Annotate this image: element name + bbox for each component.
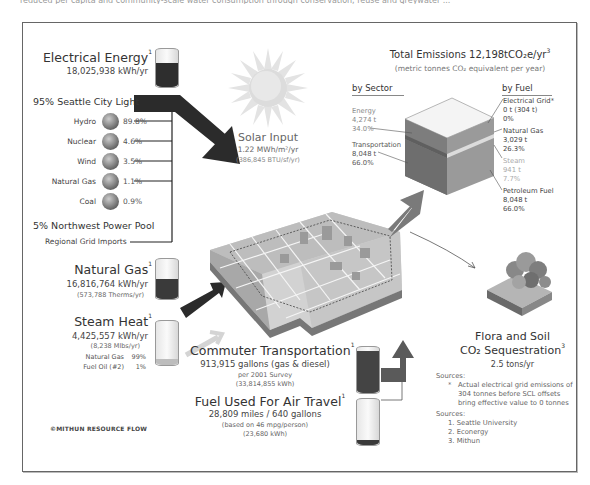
fuel-name: Petroleum Fuel <box>503 187 554 196</box>
steam-heat-value: 4,425,557 kWh/yr <box>40 331 148 341</box>
air-travel-value: 28,809 miles / 640 gallons <box>190 409 340 419</box>
sun-icon <box>228 48 308 128</box>
divider <box>352 95 404 96</box>
sequestration-arrow <box>410 232 475 268</box>
solar-input-sub: (386,845 BTU/sf/yr) <box>218 156 318 164</box>
sector-transportation: Transportation 8,048 t 66.0% <box>352 141 401 168</box>
notes-asterisk: * <box>448 381 451 390</box>
solar-input-title: Solar Input <box>218 131 318 144</box>
hydro-dam-icon <box>102 113 119 130</box>
fuel-value: 941 t <box>503 166 525 175</box>
seattle-city-light-title: 95% Seattle City Light <box>33 96 139 107</box>
steam-heat-title: Steam Heat1 <box>40 314 152 329</box>
nuclear-plant-icon <box>102 133 119 150</box>
sector-pct: 66.0% <box>352 159 401 168</box>
source-name: Wind <box>42 157 96 166</box>
commuter-title: Commuter Transportation1 <box>190 343 350 358</box>
fuel-pct: 26.3% <box>503 145 543 154</box>
fuel-steam: Steam 941 t 7.7% <box>503 157 525 184</box>
steam-heat-mix: Natural Gas 99% Fuel Oil (#2) 1% <box>82 352 146 372</box>
air-travel-cylinder-icon <box>356 398 380 446</box>
fuel-value: 0 t (304 t) <box>503 106 554 115</box>
energy-source-list: Hydro 89.8% Nuclear 4.6% Wind 3.5% Natur… <box>42 111 151 211</box>
electrical-energy-value: 18,025,938 kWh/yr <box>40 66 148 76</box>
sector-name: Transportation <box>352 141 401 150</box>
footnote-marker: 1 <box>148 312 152 319</box>
mix-name: Natural Gas <box>82 352 124 362</box>
fuel-value: 3,029 t <box>503 136 543 145</box>
solar-input-value: 1.22 MWh/m²/yr <box>218 145 318 154</box>
natural-gas-title: Natural Gas1 <box>40 262 152 277</box>
source-percent: 3.5% <box>123 157 151 166</box>
note-line: Actual electrical grid emissions of <box>458 381 573 390</box>
fuel-petroleum: Petroleum Fuel 8,048 t 66.0% <box>503 187 554 214</box>
fuel-natural-gas: Natural Gas 3,029 t 26.3% <box>503 127 543 154</box>
air-travel-sub1: (based on 46 mpg/person) <box>190 421 340 429</box>
electrical-energy-title-text: Electrical Energy <box>43 50 148 65</box>
air-travel-sub2: (23,680 kWh) <box>190 430 340 438</box>
flora-soil-icon <box>487 252 552 316</box>
natural-gas-title-text: Natural Gas <box>74 262 148 277</box>
note-line: 304 tonnes before SCL offsets <box>458 390 573 399</box>
power-pool-title: 5% Northwest Power Pool <box>33 220 154 231</box>
natural-gas-sub: (573,788 Therms/yr) <box>40 291 144 299</box>
by-sector-label: by Sector <box>352 83 392 93</box>
sequestration-title-line1: Flora and Soil <box>455 330 570 343</box>
source-name: Hydro <box>42 117 96 126</box>
steam-mix-row: Fuel Oil (#2) 1% <box>82 362 146 372</box>
wind-turbine-icon <box>102 153 119 170</box>
natural-gas-value: 16,816,764 kWh/yr <box>40 279 148 289</box>
natural-gas-arrow <box>180 282 226 318</box>
fuel-name: Electrical Grid* <box>503 97 554 106</box>
sequestration-value: 2.5 tons/yr <box>455 360 570 369</box>
energy-source-nuclear: Nuclear 4.6% <box>42 131 151 151</box>
sources-label: Sources: <box>436 410 465 419</box>
notes-label: Sources: <box>436 372 465 381</box>
source-percent: 4.6% <box>123 137 151 146</box>
footnote-marker: 1 <box>148 48 152 55</box>
source-percent: 1.1% <box>123 177 151 186</box>
fuel-pct: 66.0% <box>503 205 554 214</box>
commuter-cylinder-icon <box>356 346 380 394</box>
commuter-sub1: per 2001 Survey <box>190 371 340 379</box>
source-name: Natural Gas <box>42 177 96 186</box>
source-item: 1. Seattle University <box>448 419 517 428</box>
sector-energy: Energy 4,274 t 34.0% <box>352 107 376 134</box>
source-name: Nuclear <box>42 137 96 146</box>
mix-pct: 1% <box>124 362 146 372</box>
energy-source-wind: Wind 3.5% <box>42 151 151 171</box>
transport-up-arrow <box>381 340 414 382</box>
fuel-name: Steam <box>503 157 525 166</box>
footnote-marker: 3 <box>561 342 565 349</box>
emissions-title-text: Total Emissions 12,198tCO₂e/yr <box>390 49 547 60</box>
commuter-sub2: (33,814,855 kWh) <box>190 380 340 388</box>
energy-source-coal: Coal 0.9% <box>42 191 151 211</box>
emissions-subtitle: (metric tonnes CO₂ equivalent per year) <box>380 64 560 73</box>
electrical-energy-title: Electrical Energy1 <box>40 50 152 65</box>
by-fuel-label: by Fuel <box>502 83 533 93</box>
sequestration-title-line2: CO₂ Sequestration3 <box>455 344 570 357</box>
steam-heat-cylinder-icon <box>155 320 179 366</box>
emissions-title: Total Emissions 12,198tCO₂e/yr3 <box>380 49 560 60</box>
source-percent: 0.9% <box>123 197 151 206</box>
sector-name: Energy <box>352 107 376 116</box>
credit-label: ©MITHUN RESOURCE FLOW <box>50 425 147 432</box>
emissions-cube <box>405 98 494 195</box>
sector-value: 8,048 t <box>352 150 401 159</box>
commuter-value: 913,915 gallons (gas & diesel) <box>190 359 340 369</box>
notes-text: Actual electrical grid emissions of 304 … <box>458 381 573 408</box>
sources-list: 1. Seattle University 2. Econergy 3. Mit… <box>448 419 517 446</box>
sector-value: 4,274 t <box>352 116 376 125</box>
footnote-marker: 1 <box>341 392 345 399</box>
steam-heat-sub: (8,238 Mlbs/yr) <box>40 342 140 350</box>
fuel-value: 8,048 t <box>503 196 554 205</box>
fuel-pct: 7.7% <box>503 175 525 184</box>
divider <box>502 95 552 96</box>
source-item: 2. Econergy <box>448 428 517 437</box>
note-line: bring effective value to 0 tonnes <box>458 399 573 408</box>
air-travel-title: Fuel Used For Air Travel1 <box>190 394 350 409</box>
sector-pct: 34.0% <box>352 125 376 134</box>
fuel-electrical-grid: Electrical Grid* 0 t (304 t) 0% <box>503 97 554 124</box>
sequestration-title-text: CO₂ Sequestration <box>460 344 561 357</box>
steam-mix-row: Natural Gas 99% <box>82 352 146 362</box>
